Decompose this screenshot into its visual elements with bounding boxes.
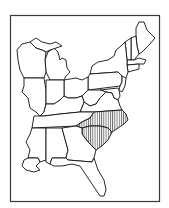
eastern-us-map — [0, 0, 169, 208]
